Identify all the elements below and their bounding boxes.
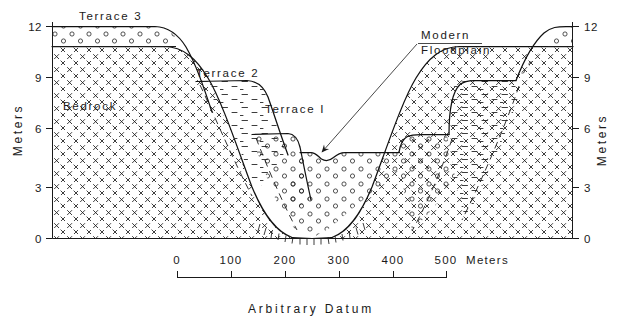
y-tick-right-3: 3: [584, 182, 591, 194]
scale-bar-units: Meters: [466, 254, 509, 266]
label-terrace-1: Terrace I: [265, 103, 325, 115]
y-tick-right-12: 12: [584, 21, 598, 33]
terrace-3-gravel-fill: [52, 27, 177, 47]
figure-container: 12 9 6 3 0 12 9 6 3 0 Meters Meters 0 10…: [0, 0, 623, 327]
scale-tick-400: 400: [381, 254, 404, 266]
y-tick-left-0: 0: [35, 233, 42, 245]
y-tick-left-6: 6: [35, 123, 42, 135]
cross-section-figure: 12 9 6 3 0 12 9 6 3 0 Meters Meters 0 10…: [0, 0, 623, 327]
label-terrace-3: Terrace 3: [79, 10, 142, 22]
y-tick-right-0: 0: [584, 233, 591, 245]
scale-tick-0: 0: [173, 254, 181, 266]
label-terrace-2: Terrace 2: [196, 67, 259, 79]
scale-tick-500: 500: [434, 254, 457, 266]
y-tick-left-3: 3: [35, 182, 42, 194]
y-tick-right-6: 6: [584, 123, 591, 135]
y-tick-left-9: 9: [35, 72, 42, 84]
label-modern-floodplain-line1: Modern: [421, 29, 470, 41]
figure-caption: Arbitrary Datum: [248, 302, 374, 316]
y-axis-title-left: Meters: [11, 104, 25, 156]
label-modern-floodplain-line2: Floodplain: [421, 44, 491, 56]
scale-tick-300: 300: [327, 254, 350, 266]
y-tick-left-12: 12: [28, 21, 42, 33]
label-bedrock: Bedrock: [63, 100, 117, 112]
y-axis-title-right: Meters: [595, 114, 609, 166]
scale-tick-200: 200: [273, 254, 296, 266]
y-tick-right-9: 9: [584, 72, 591, 84]
scale-tick-100: 100: [219, 254, 242, 266]
